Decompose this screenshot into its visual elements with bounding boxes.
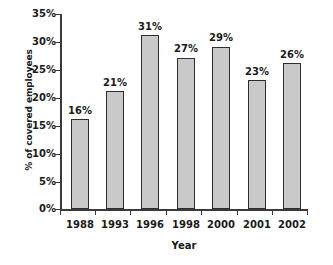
x-tick-mark-5 — [237, 210, 238, 215]
y-tick-label-0: 0% — [28, 204, 56, 214]
y-tick-label-15: 15% — [28, 121, 56, 131]
x-tick-label-1993: 1993 — [95, 219, 135, 230]
bar-value-label-2000: 29% — [201, 33, 241, 43]
bar-value-label-1996: 31% — [130, 22, 170, 32]
y-axis-title: % of covered employees — [24, 25, 34, 195]
x-axis-title: Year — [60, 240, 308, 251]
bar-value-label-2002: 26% — [272, 50, 312, 60]
y-tick-label-25: 25% — [28, 65, 56, 75]
bar-1988 — [71, 119, 89, 209]
x-tick-label-2001: 2001 — [237, 219, 277, 230]
x-tick-label-1996: 1996 — [130, 219, 170, 230]
x-tick-label-1998: 1998 — [166, 219, 206, 230]
bar-2002 — [283, 63, 301, 209]
y-tick-label-10: 10% — [28, 149, 56, 159]
bar-1998 — [177, 58, 195, 209]
y-tick-label-35: 35% — [28, 9, 56, 19]
bar-2001 — [248, 80, 266, 209]
x-tick-mark-7 — [307, 210, 308, 215]
y-tick-label-5: 5% — [28, 177, 56, 187]
bar-value-label-2001: 23% — [237, 67, 277, 77]
x-tick-label-2002: 2002 — [272, 219, 312, 230]
y-tick-label-30: 30% — [28, 37, 56, 47]
x-tick-mark-6 — [272, 210, 273, 215]
bar-value-label-1998: 27% — [166, 44, 206, 54]
x-tick-label-1988: 1988 — [60, 219, 100, 230]
x-tick-mark-2 — [130, 210, 131, 215]
x-tick-mark-3 — [166, 210, 167, 215]
y-tick-label-20: 20% — [28, 93, 56, 103]
x-axis-line — [60, 209, 308, 211]
bar-value-label-1993: 21% — [95, 78, 135, 88]
x-tick-mark-0 — [60, 210, 61, 215]
x-tick-mark-4 — [201, 210, 202, 215]
x-tick-label-2000: 2000 — [201, 219, 241, 230]
bar-1996 — [141, 35, 159, 209]
bar-value-label-1988: 16% — [60, 106, 100, 116]
bar-2000 — [212, 47, 230, 209]
x-tick-mark-1 — [95, 210, 96, 215]
bar-1993 — [106, 91, 124, 209]
bar-chart: % of covered employees 35% 30% 25% 20% 1… — [0, 0, 333, 265]
